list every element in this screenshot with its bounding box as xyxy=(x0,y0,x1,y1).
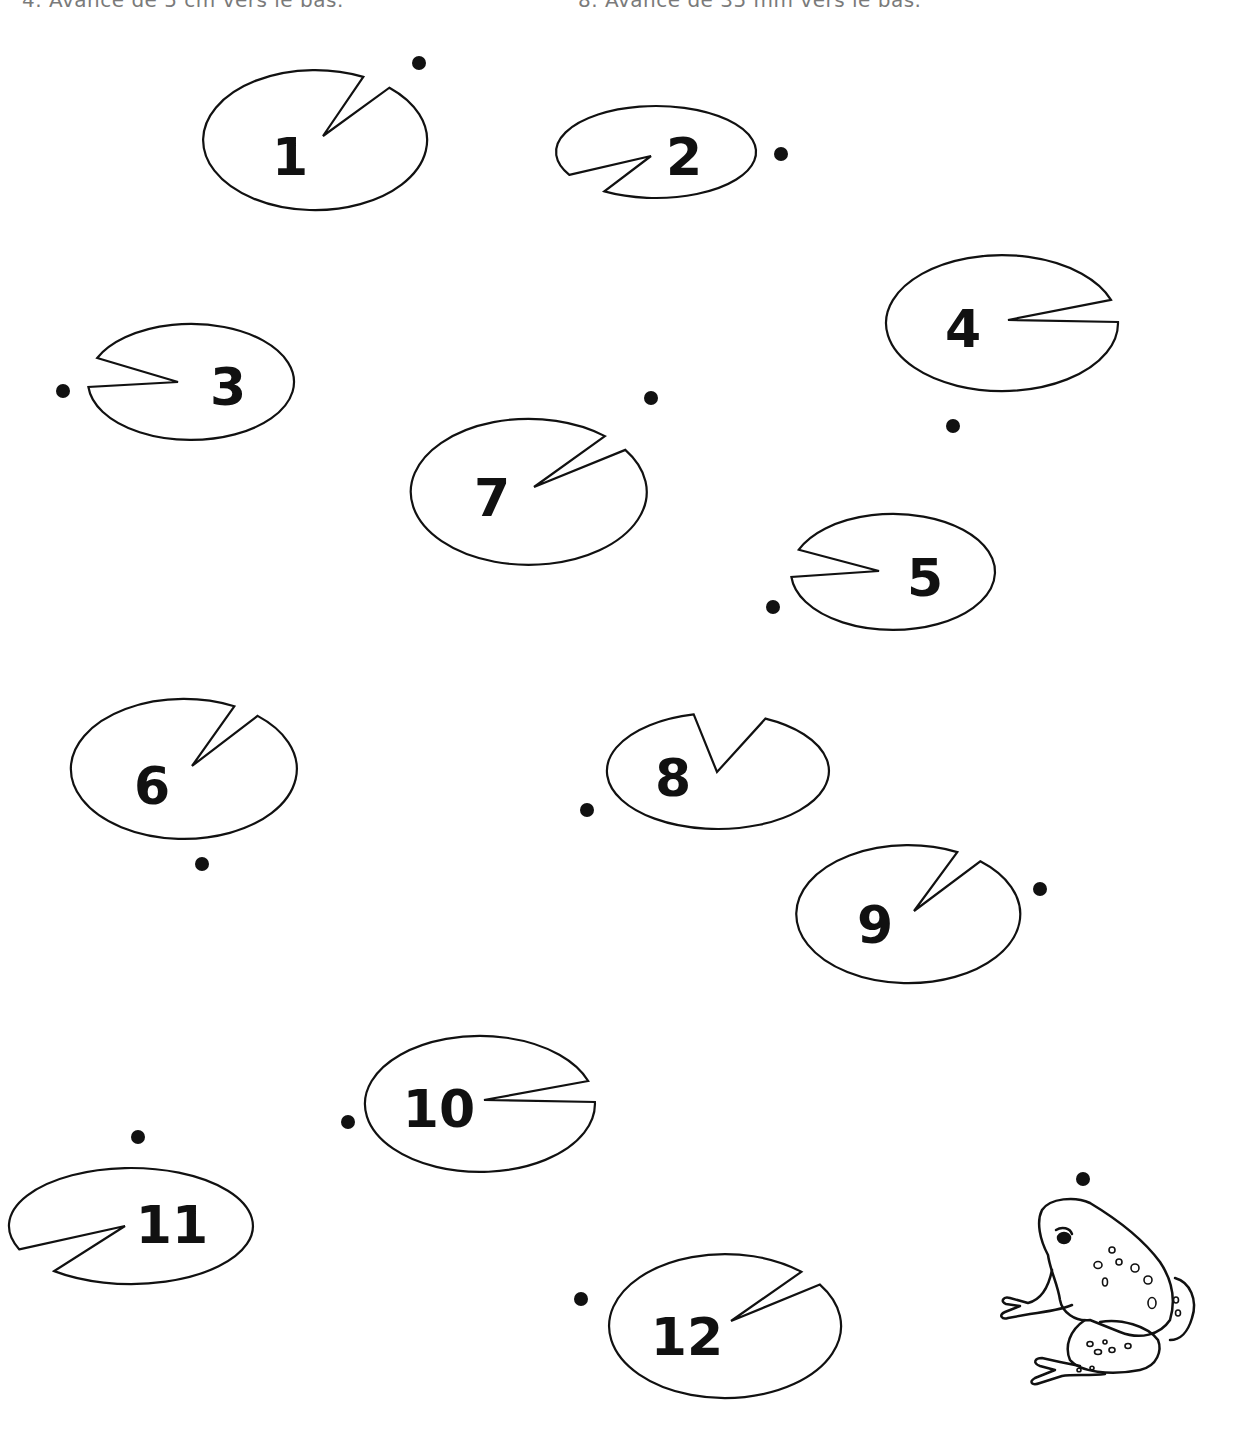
lily-pad-5: 5 xyxy=(766,514,995,630)
target-dot xyxy=(574,1292,588,1306)
lily-pad-shape xyxy=(796,845,1020,983)
lily-pad-shape xyxy=(886,255,1118,391)
lily-pad-number: 11 xyxy=(136,1195,208,1255)
lily-pad-number: 6 xyxy=(134,756,170,816)
lily-pad-number: 1 xyxy=(272,127,308,187)
lily-pad-number: 8 xyxy=(655,748,691,808)
lily-pad-9: 9 xyxy=(796,845,1047,983)
lily-pad-worksheet: 123456789101112 xyxy=(0,0,1239,1443)
lily-pad-10: 10 xyxy=(341,1036,595,1172)
target-dot xyxy=(766,600,780,614)
frog-start-dot xyxy=(1076,1172,1090,1186)
target-dot xyxy=(341,1115,355,1129)
lily-pad-shape xyxy=(607,714,829,829)
target-dot xyxy=(56,384,70,398)
lily-pad-shape xyxy=(88,324,294,440)
target-dot xyxy=(644,391,658,405)
lily-pad-shape xyxy=(411,419,647,565)
lily-pad-shape xyxy=(9,1168,253,1284)
lily-pad-number: 5 xyxy=(907,548,943,608)
lily-pad-shape xyxy=(609,1254,841,1398)
target-dot xyxy=(195,857,209,871)
lily-pads: 123456789101112 xyxy=(9,56,1118,1398)
target-dot xyxy=(412,56,426,70)
lily-pad-shape xyxy=(71,699,297,839)
lily-pad-number: 12 xyxy=(651,1307,723,1367)
lily-pad-4: 4 xyxy=(886,255,1118,433)
target-dot xyxy=(774,147,788,161)
lily-pad-11: 11 xyxy=(9,1130,253,1284)
target-dot xyxy=(580,803,594,817)
lily-pad-number: 2 xyxy=(666,127,702,187)
target-dot xyxy=(1033,882,1047,896)
lily-pad-number: 7 xyxy=(474,468,510,528)
frog-icon xyxy=(1001,1199,1194,1384)
lily-pad-number: 10 xyxy=(403,1079,475,1139)
lily-pad-number: 3 xyxy=(210,357,246,417)
lily-pad-6: 6 xyxy=(71,699,297,871)
lily-pad-number: 4 xyxy=(945,299,981,359)
lily-pad-7: 7 xyxy=(411,391,658,565)
target-dot xyxy=(131,1130,145,1144)
lily-pad-2: 2 xyxy=(556,106,788,198)
lily-pad-number: 9 xyxy=(857,895,893,955)
lily-pad-shape xyxy=(365,1036,595,1172)
lily-pad-12: 12 xyxy=(574,1254,841,1398)
lily-pad-1: 1 xyxy=(203,56,427,210)
target-dot xyxy=(946,419,960,433)
lily-pad-shape xyxy=(203,70,427,210)
lily-pad-3: 3 xyxy=(56,324,294,440)
lily-pad-shape xyxy=(791,514,995,630)
lily-pad-8: 8 xyxy=(580,714,829,829)
lily-pad-shape xyxy=(556,106,756,198)
